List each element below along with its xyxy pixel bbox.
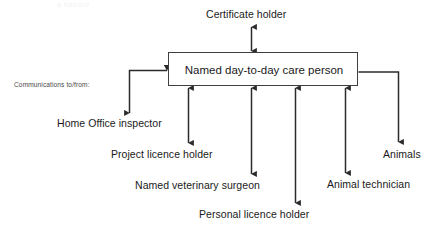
page-top-text-fragment: a hazard (57, 0, 89, 9)
node-label-certificate-holder[interactable]: Certificate holder (206, 8, 286, 20)
diagram-canvas: a hazard Named day-to-day care person Co… (0, 0, 431, 234)
node-label-project-licence-holder[interactable]: Project licence holder (111, 148, 213, 160)
connector-animals (359, 72, 399, 142)
connector-home-office-inspector (130, 71, 168, 114)
node-label-animals[interactable]: Animals (383, 148, 421, 160)
node-named-day-to-day-care-person[interactable]: Named day-to-day care person (168, 52, 358, 86)
node-label-animal-technician[interactable]: Animal technician (327, 178, 410, 190)
node-label-named-veterinary-surgeon[interactable]: Named veterinary surgeon (135, 179, 260, 191)
communications-annotation: Communications to/from: (14, 81, 90, 89)
node-label-personal-licence-holder[interactable]: Personal licence holder (199, 208, 309, 220)
node-label: Named day-to-day care person (169, 53, 359, 87)
node-label-home-office-inspector[interactable]: Home Office inspector (57, 117, 162, 129)
